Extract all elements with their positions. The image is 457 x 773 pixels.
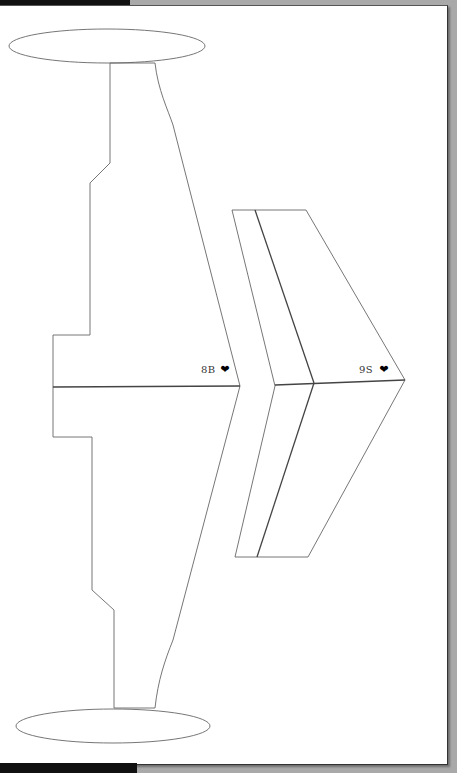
bottom-stabilizer-outline <box>16 709 210 743</box>
cutout-drawing <box>0 0 457 773</box>
wing-fold-line-upper <box>255 210 314 383</box>
scan-edge-bottom <box>0 763 137 773</box>
wing-fold-line-center <box>275 380 405 385</box>
wing-label: 9S <box>359 364 373 375</box>
heart-icon: ❥ <box>218 364 231 373</box>
top-stabilizer-outline <box>9 29 205 63</box>
fuselage-fold-line <box>53 386 240 387</box>
wing-fold-line-lower <box>257 383 314 557</box>
fuselage-label: 8B <box>201 364 216 375</box>
heart-icon: ❥ <box>377 364 390 373</box>
